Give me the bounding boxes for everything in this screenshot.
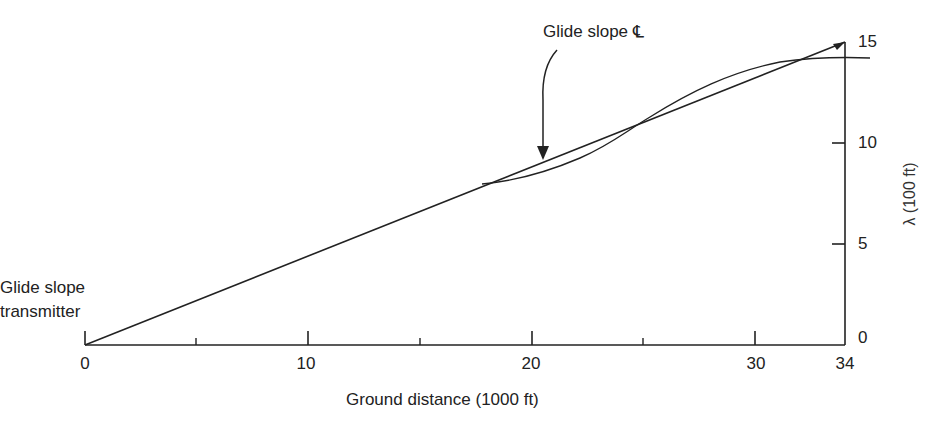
glide-slope-diagram (0, 0, 931, 436)
glide-path-arrowhead (833, 42, 845, 50)
ideal-glide-path-line (85, 42, 845, 345)
transmitter-label-line1: Glide slope (0, 278, 85, 298)
x-tick-label-30: 30 (747, 354, 766, 374)
y-tick-label-15: 15 (858, 32, 877, 52)
y-tick-label-0: 0 (858, 328, 867, 348)
y-axis-title: λ (100 ft) (901, 154, 919, 234)
y-tick-label-5: 5 (858, 234, 867, 254)
x-tick-label-20: 20 (522, 354, 541, 374)
annotation-arrowhead (537, 146, 549, 160)
x-tick-label-34: 34 (836, 354, 855, 374)
x-tick-label-10: 10 (297, 354, 316, 374)
annotation-arrow-shaft (543, 50, 557, 148)
annotation-glide-slope-centerline: Glide slope ℄ (543, 22, 644, 42)
x-axis-title: Ground distance (1000 ft) (346, 390, 539, 410)
transmitter-label-line2: transmitter (0, 302, 80, 322)
glide-slope-centerline-curve (482, 57, 870, 184)
x-tick-label-0: 0 (80, 354, 89, 374)
y-tick-label-10: 10 (858, 133, 877, 153)
